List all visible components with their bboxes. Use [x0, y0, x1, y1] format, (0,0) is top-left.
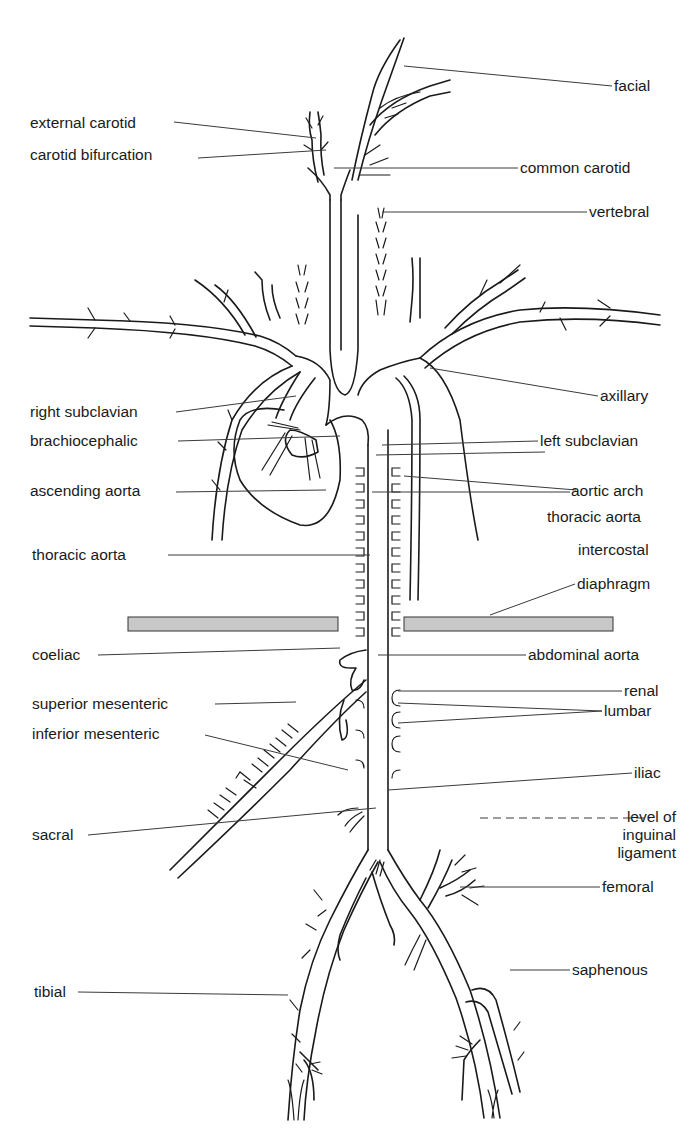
label-diaphragm: diaphragm [577, 576, 650, 592]
label-left-subclavian: left subclavian [540, 433, 638, 449]
diaphragm-bars [128, 617, 613, 631]
label-intercostal: intercostal [578, 542, 649, 558]
label-thoracic-aorta-right: thoracic aorta [547, 509, 641, 525]
lower-limb-arteries [288, 850, 524, 1120]
label-aortic-arch: aortic arch [571, 483, 643, 499]
visceral-branches [170, 650, 366, 878]
label-saphenous: saphenous [572, 962, 648, 978]
label-abdominal-aorta: abdominal aorta [528, 647, 639, 663]
label-brachiocephalic: brachiocephalic [30, 433, 138, 449]
label-external-carotid: external carotid [30, 115, 136, 131]
label-renal: renal [624, 683, 658, 699]
label-inguinal-ligament: level of inguinal ligament [606, 808, 676, 862]
label-ascending-aorta: ascending aorta [30, 483, 140, 499]
label-femoral: femoral [602, 879, 654, 895]
label-axillary: axillary [600, 388, 648, 404]
label-tibial: tibial [34, 984, 66, 1000]
intercostal-branches [356, 468, 400, 778]
carotid-arteries [304, 38, 450, 395]
label-carotid-bifurcation: carotid bifurcation [30, 147, 152, 163]
label-superior-mesenteric: superior mesenteric [32, 696, 168, 712]
label-inferior-mesenteric: inferior mesenteric [32, 726, 160, 742]
label-facial: facial [614, 78, 650, 94]
label-vertebral: vertebral [589, 204, 649, 220]
label-lumbar: lumbar [604, 703, 651, 719]
aortic-arch-region [212, 356, 478, 600]
label-iliac: iliac [634, 765, 661, 781]
label-right-subclavian: right subclavian [30, 404, 138, 420]
aorta-trunk [368, 430, 388, 850]
label-coeliac: coeliac [32, 647, 80, 663]
label-sacral: sacral [32, 827, 73, 843]
label-thoracic-aorta-left: thoracic aorta [32, 547, 126, 563]
upper-limb-arteries [30, 258, 660, 368]
label-common-carotid: common carotid [520, 160, 630, 176]
